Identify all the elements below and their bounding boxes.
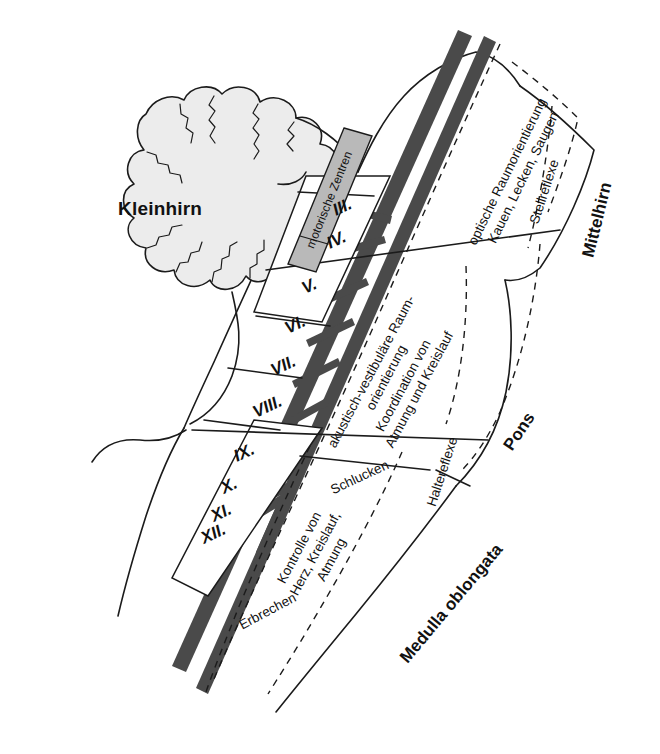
dashed-pons-zone bbox=[462, 244, 540, 470]
brainstem-diagram: Kleinhirn bbox=[0, 0, 660, 754]
region-label-pons: Pons bbox=[500, 409, 539, 454]
middle-peduncle bbox=[190, 292, 239, 424]
medulla-left-edge bbox=[118, 428, 184, 616]
inferior-peduncle bbox=[92, 430, 186, 462]
cranial-nerve-VII: VII. bbox=[268, 352, 299, 380]
region-label-medulla: Medulla oblongata bbox=[396, 540, 507, 667]
cerebellum-label: Kleinhirn bbox=[118, 198, 202, 219]
medulla-right-edge bbox=[276, 486, 456, 712]
pons-right-edge bbox=[456, 280, 511, 486]
region-label-mittelhirn: Mittelhirn bbox=[579, 180, 616, 259]
cranial-nerve-VIII: VIII. bbox=[250, 392, 285, 422]
diagram-canvas: Kleinhirn bbox=[0, 0, 660, 754]
function-haltereflexe: Haltereflexe bbox=[424, 435, 461, 508]
